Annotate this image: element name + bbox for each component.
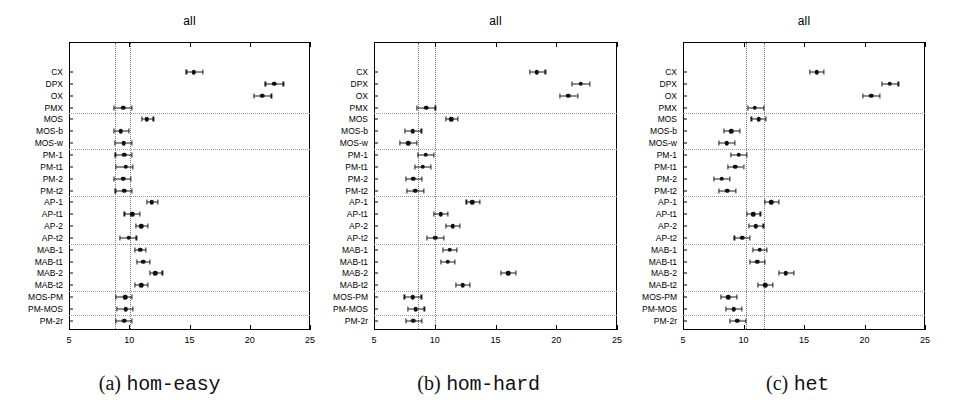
x-tick-mark-top [683, 42, 684, 47]
y-tick-mark [683, 249, 687, 250]
y-tick-mark [69, 202, 73, 203]
forest-plot-figure: all510152025CXDPXOXPMXMOSMOS-bMOS-wPM-1P… [0, 0, 958, 404]
y-tick-mark [374, 131, 378, 132]
error-bar-cap [729, 318, 730, 323]
error-bar-cap [898, 81, 899, 86]
y-axis-label: AP-t2 [656, 233, 677, 243]
data-point-marker [763, 283, 768, 288]
error-bar-cap [745, 318, 746, 323]
error-bar-cap [253, 93, 254, 98]
data-point-marker [123, 307, 128, 312]
data-point-marker [121, 176, 126, 181]
y-tick-mark [683, 261, 687, 262]
group-separator [69, 196, 310, 197]
y-axis-label: MAB-t2 [35, 280, 63, 290]
y-axis-label: AP-2 [349, 221, 368, 231]
error-bar-cap [730, 152, 731, 157]
error-bar-cap [421, 318, 422, 323]
error-bar-cap [725, 307, 726, 312]
caption-name: hom-hard [446, 373, 540, 396]
x-tick-mark [925, 325, 926, 330]
error-bar-cap [764, 259, 765, 264]
x-tick-label: 10 [124, 335, 134, 345]
panel-title: all [683, 14, 925, 28]
y-tick-mark [69, 178, 73, 179]
data-point-marker [139, 224, 144, 229]
y-tick-mark [683, 166, 687, 167]
y-tick-mark [69, 237, 73, 238]
group-separator [69, 149, 310, 150]
error-bar-cap [443, 247, 444, 252]
x-tick-label: 15 [799, 335, 809, 345]
error-bar-cap [466, 200, 467, 205]
x-tick-mark [617, 325, 618, 330]
group-separator [69, 291, 310, 292]
error-bar-cap [881, 81, 882, 86]
y-axis-label: PM-1 [43, 150, 63, 160]
y-tick-mark [683, 297, 687, 298]
error-bar-cap [734, 235, 735, 240]
y-tick-mark [374, 95, 378, 96]
error-bar-cap [435, 105, 436, 110]
x-tick-mark [310, 325, 311, 330]
y-tick-mark [69, 83, 73, 84]
reference-line [418, 43, 419, 329]
error-bar-cap [530, 70, 531, 75]
data-point-marker [719, 176, 724, 181]
data-point-marker [869, 93, 874, 98]
y-axis-label: OX [51, 91, 63, 101]
error-bar-cap [460, 224, 461, 229]
error-bar-cap [132, 188, 133, 193]
error-bar-cap [147, 283, 148, 288]
y-axis-label: MAB-t1 [35, 257, 63, 267]
y-axis-label: MAB-2 [342, 268, 368, 278]
error-bar-cap [113, 129, 114, 134]
y-tick-mark [69, 95, 73, 96]
y-axis-label: PMX [350, 103, 368, 113]
y-axis-label: PMX [45, 103, 63, 113]
error-bar-cap [141, 117, 142, 122]
y-axis-label: AP-t2 [347, 233, 368, 243]
data-point-marker [449, 117, 454, 122]
group-separator [374, 315, 617, 316]
y-axis-label: AP-2 [44, 221, 63, 231]
error-bar-cap [132, 307, 133, 312]
data-point-marker [726, 295, 731, 300]
error-bar-cap [727, 164, 728, 169]
data-point-marker [732, 307, 737, 312]
x-tick-mark-top [617, 42, 618, 47]
error-bar-cap [516, 271, 517, 276]
data-point-marker [138, 248, 143, 253]
group-separator [683, 196, 925, 197]
error-bar-cap [124, 212, 125, 217]
x-tick-label: 20 [245, 335, 255, 345]
data-point-marker [121, 105, 126, 110]
data-point-marker [272, 82, 277, 87]
error-bar-cap [136, 259, 137, 264]
error-bar-cap [162, 271, 163, 276]
error-bar-cap [202, 70, 203, 75]
y-tick-mark [374, 154, 378, 155]
y-axis-label: AP-t1 [347, 209, 368, 219]
x-tick-mark [374, 325, 375, 330]
error-bar-cap [426, 235, 427, 240]
error-bar-cap [131, 141, 132, 146]
error-bar-cap [589, 81, 590, 86]
y-tick-mark [683, 72, 687, 73]
y-tick-mark [683, 320, 687, 321]
error-bar-cap [434, 212, 435, 217]
error-bar-cap [748, 224, 749, 229]
data-point-marker [755, 259, 760, 264]
y-tick-mark [374, 226, 378, 227]
y-tick-mark [683, 143, 687, 144]
y-tick-mark [69, 226, 73, 227]
data-point-marker [578, 82, 583, 87]
error-bar-cap [114, 141, 115, 146]
data-point-marker [126, 236, 131, 241]
y-axis-label: PM-MOS [28, 304, 63, 314]
data-point-marker [470, 200, 475, 205]
x-tick-mark [865, 325, 866, 330]
y-axis-label: MOS [349, 114, 368, 124]
y-axis-label: MOS-w [35, 138, 63, 148]
error-bar-cap [443, 235, 444, 240]
